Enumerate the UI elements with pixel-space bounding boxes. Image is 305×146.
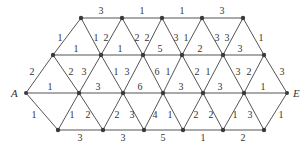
edge-weight: 1 [114, 66, 119, 77]
edge-weight: 1 [32, 109, 37, 120]
node-T1 [120, 16, 124, 20]
edge-weight: 2 [209, 109, 214, 120]
edge-weight: 2 [115, 109, 120, 120]
edge-U1-M2 [101, 55, 123, 93]
node-B3 [181, 128, 185, 132]
terminal-label-E: E [292, 87, 300, 99]
edge-weight: 3 [82, 66, 87, 77]
edge-weight: 5 [161, 132, 166, 143]
edge-weight: 2 [135, 32, 140, 43]
node-M5 [242, 91, 246, 95]
node-U3 [180, 53, 184, 57]
node-U0 [51, 53, 55, 57]
node-M4 [201, 91, 205, 95]
edge-weight: 1 [259, 32, 264, 43]
edge-weight: 5 [158, 43, 163, 54]
edge-weight: 3 [99, 5, 104, 16]
edge-weight: 1 [261, 81, 266, 92]
edge-weight: 3 [96, 81, 101, 92]
node-U2 [141, 53, 145, 57]
edge-T1-U2 [122, 18, 143, 55]
node-B2 [142, 128, 146, 132]
edge-weight: 1 [58, 32, 63, 43]
edge-weight: 3 [125, 66, 130, 77]
edge-weight: 2 [247, 66, 252, 77]
edge-U3-M4 [182, 55, 203, 93]
edge-B0-M1 [58, 93, 79, 130]
node-M1 [77, 91, 81, 95]
edge-weight-labels: 3113112223133111523223136121323136331112… [30, 5, 285, 143]
node-U1 [99, 53, 103, 57]
node-T0 [79, 16, 83, 20]
edge-weight: 1 [118, 43, 123, 54]
edge-weight: 3 [248, 109, 253, 120]
node-M2 [121, 91, 125, 95]
edge-weight: 1 [140, 5, 145, 16]
edge-weight: 4 [153, 109, 158, 120]
node-B5 [262, 128, 266, 132]
node-U4 [221, 53, 225, 57]
edge-U0-M1 [53, 55, 79, 93]
node-U5 [262, 53, 266, 57]
edge-weight: 1 [94, 32, 99, 43]
edge-weight: 1 [233, 109, 238, 120]
node-T4 [241, 16, 245, 20]
edge-weight: 1 [70, 109, 75, 120]
node-M3 [161, 91, 165, 95]
edge-weight: 3 [236, 66, 241, 77]
edge-weight: 2 [194, 109, 199, 120]
edge-weight: 1 [166, 66, 171, 77]
node-A [24, 91, 28, 95]
edge-M1-B1 [79, 93, 103, 130]
edge-weight: 2 [145, 32, 150, 43]
edge-weight: 1 [184, 32, 189, 43]
node-T2 [160, 16, 164, 20]
edge-weight: 3 [215, 32, 220, 43]
edge-weight: 2 [195, 66, 200, 77]
edge-weight: 3 [78, 132, 83, 143]
edge-weight: 3 [218, 81, 223, 92]
edge-weight: 1 [279, 109, 284, 120]
edge-weight: 3 [174, 32, 179, 43]
edge-B5-E [264, 93, 287, 130]
edge-weight: 6 [155, 66, 160, 77]
node-T3 [200, 16, 204, 20]
edge-weight: 3 [280, 66, 285, 77]
edge-weight: 1 [74, 43, 79, 54]
edge-weight: 3 [220, 5, 225, 16]
edge-weight: 1 [206, 66, 211, 77]
node-B0 [56, 128, 60, 132]
edge-M3-B3 [163, 93, 183, 130]
edge-T2-U3 [162, 18, 182, 55]
edge-weight: 2 [241, 132, 246, 143]
edge-weight: 3 [130, 109, 135, 120]
edge-weight: 2 [30, 66, 35, 77]
edge-U2-M3 [143, 55, 163, 93]
terminal-label-A: A [10, 87, 18, 99]
node-B1 [101, 128, 105, 132]
edge-weight: 2 [69, 66, 74, 77]
weighted-grid-graph: 3113112223133111523223136121323136331112… [0, 0, 305, 146]
edge-weight: 1 [180, 5, 185, 16]
edge-weight: 3 [238, 43, 243, 54]
edge-B1-M2 [103, 93, 123, 130]
edge-U4-M5 [223, 55, 244, 93]
node-B4 [221, 128, 225, 132]
edge-weight: 6 [138, 81, 143, 92]
node-E [285, 91, 289, 95]
edge-weight: 1 [48, 81, 53, 92]
edge-weight: 2 [86, 109, 91, 120]
edge-weight: 2 [198, 43, 203, 54]
edge-weight: 3 [121, 132, 126, 143]
edge-T3-U4 [202, 18, 223, 55]
edge-weight: 2 [104, 32, 109, 43]
edge-weight: 1 [201, 132, 206, 143]
edge-weight: 1 [168, 109, 173, 120]
edge-weight: 3 [179, 81, 184, 92]
edge-weight: 3 [225, 32, 230, 43]
